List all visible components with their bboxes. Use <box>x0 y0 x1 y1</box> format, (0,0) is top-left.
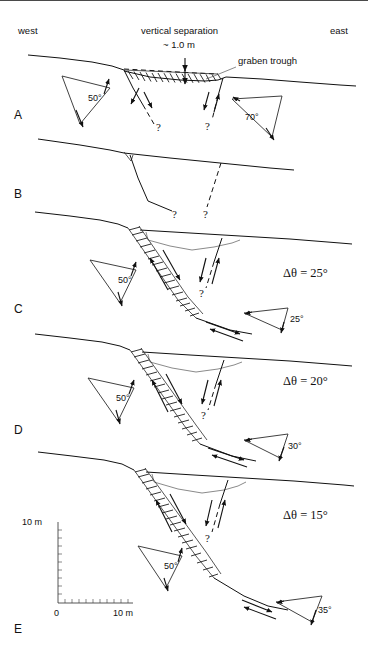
dip-triangle-30-d: 30° <box>244 434 302 461</box>
delta-theta-c: Δθ = 25° <box>283 266 328 280</box>
scale-origin-label: 0 <box>54 608 59 618</box>
panel-d: ? 50° 30° Δθ = 20° D <box>14 334 352 467</box>
scale-bar: 10 m 0 10 m <box>22 517 133 618</box>
angle-label-50-d: 50° <box>116 393 130 403</box>
question-mark-d: ? <box>201 409 206 421</box>
dip-triangle-35-e: 35° <box>276 596 332 625</box>
scale-vertical-label: 10 m <box>22 517 42 527</box>
vertical-separation-value: ~ 1.0 m <box>163 39 195 50</box>
dip-triangle-50-a: 50° <box>62 76 110 127</box>
question-mark-b-east: ? <box>203 208 208 220</box>
dip-triangle-50-d: 50° <box>88 378 134 424</box>
hachured-fault-zone-d <box>130 348 207 444</box>
panel-b: ? ? B <box>14 139 294 220</box>
question-mark-b-west: ? <box>172 208 177 220</box>
panel-letter-d: D <box>14 423 23 437</box>
dip-triangle-25-c: 25° <box>244 308 304 333</box>
panel-a: ? ? 50° 70° A <box>14 55 356 140</box>
angle-label-25-c: 25° <box>290 314 304 324</box>
angle-label-35-e: 35° <box>318 605 332 615</box>
question-mark-c: ? <box>199 287 204 299</box>
panel-letter-c: C <box>14 302 23 316</box>
question-mark-e: ? <box>205 532 210 544</box>
fault-evolution-figure: west east vertical separation ~ 1.0 m gr… <box>0 0 368 658</box>
angle-label-30-d: 30° <box>288 441 302 451</box>
delta-theta-d: Δθ = 20° <box>283 374 328 388</box>
panel-letter-e: E <box>14 622 22 636</box>
panel-e: ? 50° 35° Δθ = 15° E <box>14 452 354 636</box>
scale-horizontal-label: 10 m <box>113 608 133 618</box>
angle-label-70-a: 70° <box>245 112 259 122</box>
panel-letter-a: A <box>14 108 22 122</box>
hachured-fault-zone-c <box>128 226 203 318</box>
question-mark-a-west: ? <box>156 121 161 133</box>
east-label: east <box>330 25 348 36</box>
vertical-separation-label: vertical separation <box>141 25 218 36</box>
delta-theta-e: Δθ = 15° <box>283 508 328 522</box>
angle-label-50-c: 50° <box>118 275 132 285</box>
dip-triangle-70-a: 70° <box>232 96 282 140</box>
dip-triangle-50-c: 50° <box>90 260 136 306</box>
dip-triangle-50-e: 50° <box>138 546 182 591</box>
question-mark-a-east: ? <box>205 120 210 132</box>
west-label: west <box>17 25 38 36</box>
graben-trough-label: graben trough <box>238 55 297 66</box>
panel-letter-b: B <box>14 187 22 201</box>
angle-label-50-a: 50° <box>88 93 102 103</box>
panel-c: ? 50° 25° Δθ = 25° C <box>14 212 352 341</box>
angle-label-50-e: 50° <box>164 561 178 571</box>
